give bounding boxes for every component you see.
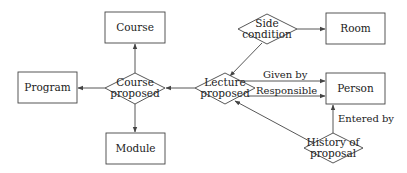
relationship-side-condition[interactable]: Side condition (238, 14, 297, 44)
entity-program[interactable]: Program (18, 72, 77, 103)
entity-program-label: Program (24, 81, 70, 93)
relationship-lecture-proposed-line2: proposed (200, 87, 250, 99)
relationship-side-condition-line2: condition (242, 28, 292, 40)
relationship-history-line2: proposal (310, 147, 357, 159)
entity-course[interactable]: Course (105, 12, 165, 43)
edge-label-entered-by: Entered by (338, 113, 394, 124)
entity-person-label: Person (337, 82, 374, 94)
edge-label-responsible: Responsible (256, 85, 317, 96)
relationship-course-proposed[interactable]: Course proposed (105, 73, 165, 104)
entity-room[interactable]: Room (326, 13, 385, 44)
entity-module-label: Module (115, 142, 155, 154)
relationship-history-of-proposal[interactable]: History of proposal (304, 133, 363, 163)
relationship-course-proposed-line2: proposed (110, 87, 160, 99)
edge-side-condition-to-lecture (230, 43, 262, 76)
entity-person[interactable]: Person (326, 73, 385, 104)
edge-label-given-by: Given by (263, 69, 308, 80)
er-diagram: Course Program Module Room Person Course… (0, 0, 407, 173)
entity-course-label: Course (116, 21, 154, 33)
entity-room-label: Room (340, 22, 371, 34)
edge-history-to-lecture (235, 101, 313, 143)
relationship-lecture-proposed[interactable]: Lecture proposed (195, 73, 255, 104)
entity-module[interactable]: Module (106, 133, 165, 164)
